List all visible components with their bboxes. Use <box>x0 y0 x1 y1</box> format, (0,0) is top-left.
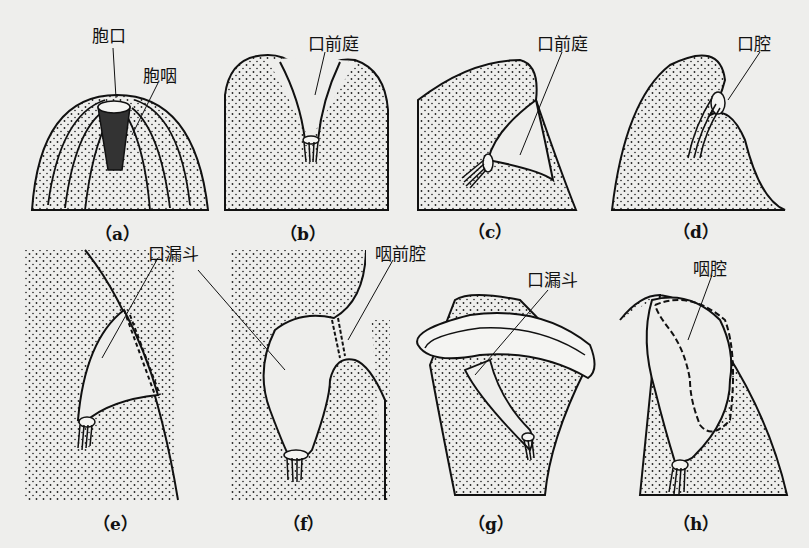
label-pharyngeal-cavity: 咽腔 <box>693 255 727 280</box>
label-vestibulum-c: 口前庭 <box>537 30 588 55</box>
caption-g: （g） <box>468 510 514 535</box>
panel-a-drawing <box>32 48 208 210</box>
caption-a: （a） <box>95 220 140 245</box>
panel-e-drawing <box>25 250 178 500</box>
caption-f: （f） <box>283 510 324 535</box>
label-buccal-cavity: 口腔 <box>737 30 771 55</box>
caption-h: （h） <box>673 510 719 535</box>
label-vestibulum-b: 口前庭 <box>308 30 359 55</box>
panel-f-drawing <box>198 250 396 500</box>
caption-d: （d） <box>673 218 719 243</box>
caption-b: （b） <box>280 220 326 245</box>
caption-c: （c） <box>468 218 512 243</box>
panel-d-drawing <box>612 52 785 210</box>
label-infundibulum-e: 口漏斗 <box>148 240 199 265</box>
panel-c-drawing <box>418 52 576 210</box>
caption-e: （e） <box>93 510 138 535</box>
diagram-canvas <box>0 0 809 548</box>
label-cytostome: 胞口 <box>92 22 126 47</box>
panel-g-drawing <box>417 290 594 495</box>
label-prepharyngeal-cavity: 咽前腔 <box>375 240 426 265</box>
panel-b-drawing <box>225 52 388 210</box>
label-cytopharynx: 胞咽 <box>143 62 177 87</box>
panel-h-drawing <box>620 275 787 495</box>
label-infundibulum-g: 口漏斗 <box>527 266 578 291</box>
